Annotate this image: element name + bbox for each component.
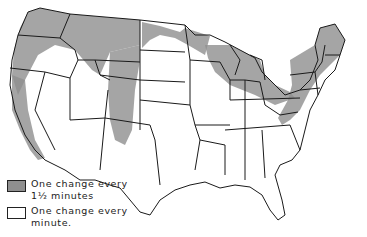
legend-label-line2: 1½ minutes	[31, 190, 128, 202]
legend-label-shaded: One change every 1½ minutes	[31, 178, 128, 202]
legend-label-unshaded: One change every minute.	[31, 205, 128, 229]
legend-item-shaded: One change every 1½ minutes	[7, 178, 128, 202]
legend-swatch-shaded	[7, 180, 26, 192]
legend-item-unshaded: One change every minute.	[7, 205, 128, 229]
legend-label-line1: One change every	[31, 205, 128, 217]
legend-label-line1: One change every	[31, 178, 128, 190]
legend-label-line2: minute.	[31, 217, 128, 229]
map-legend: One change every 1½ minutes One change e…	[7, 178, 128, 232]
legend-swatch-unshaded	[7, 207, 26, 219]
